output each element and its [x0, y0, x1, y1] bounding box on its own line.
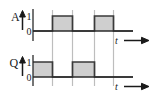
signal-a-fill	[53, 16, 114, 31]
signal-a-trace	[33, 16, 133, 31]
signal-a-time-label: t	[115, 35, 118, 46]
signal-a-axis-arrow-up	[20, 11, 26, 31]
signal-q-time-arrow-icon	[124, 83, 149, 89]
signal-a-time-arrow-icon	[124, 37, 149, 43]
timing-diagram-figure: A 1 0 t	[0, 0, 153, 93]
signal-a-low-label: 0	[27, 26, 32, 37]
signal-q-group: Q 1 0 t	[10, 55, 150, 92]
signal-a-group: A 1 0 t	[11, 9, 149, 46]
signal-a-pulse-1	[53, 16, 73, 31]
timing-diagram-svg: A 1 0 t	[0, 0, 153, 93]
signal-q-time-label: t	[115, 81, 118, 92]
signal-a-high-label: 1	[27, 11, 32, 22]
signal-q-pulse-2	[73, 62, 95, 77]
signal-q-pulse-1	[33, 62, 53, 77]
signal-q-high-label: 1	[27, 57, 32, 68]
signal-q-fill	[33, 62, 95, 77]
signal-q-label: Q	[10, 56, 19, 70]
signal-a-pulse-2	[95, 16, 114, 31]
signal-q-axis-arrow-up	[20, 57, 26, 77]
signal-a-label: A	[11, 10, 20, 24]
signal-q-low-label: 0	[27, 72, 32, 83]
